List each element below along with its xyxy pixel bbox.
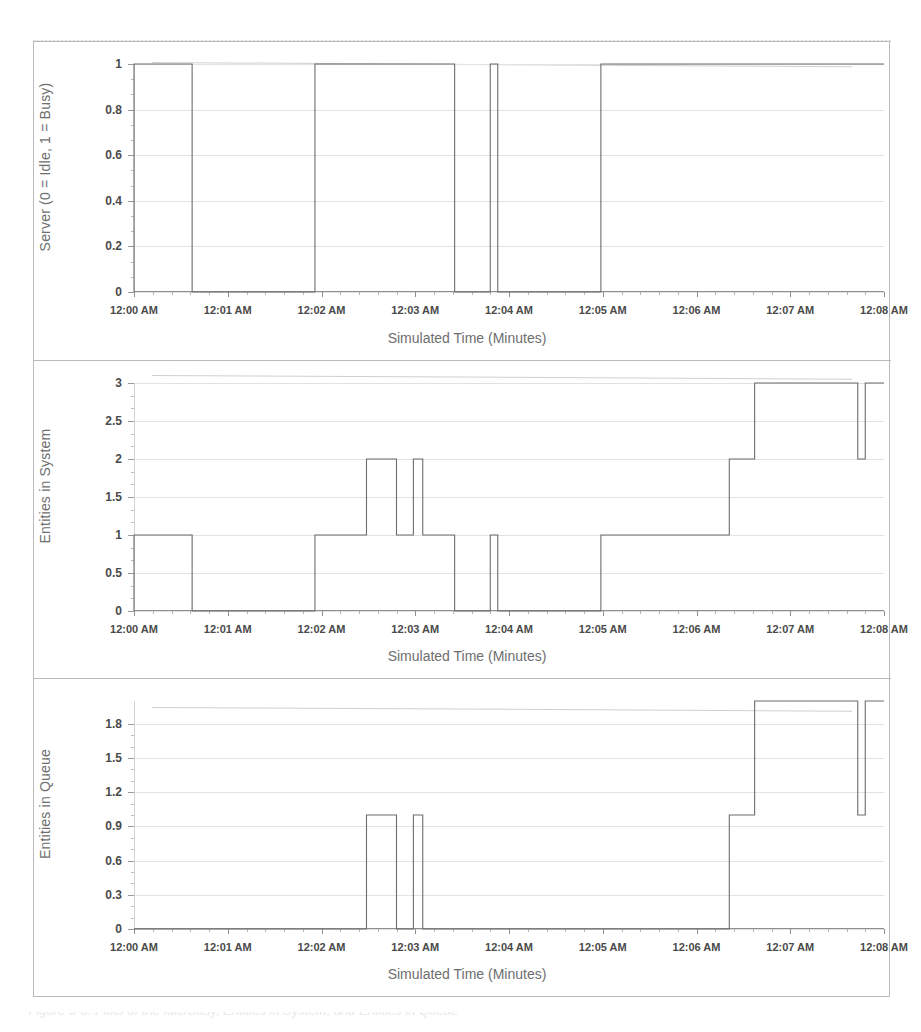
x-tick-mark: [884, 292, 885, 297]
x-tick-mark: [509, 292, 510, 297]
x-tick-mark: [790, 929, 791, 934]
plot-area-entities-in-system: 00.511.522.5312:00 AM12:01 AM12:02 AM12:…: [134, 383, 884, 611]
x-tick-mark: [509, 929, 510, 934]
y-tick-label: 0: [82, 604, 122, 618]
x-tick-minor: [865, 929, 866, 932]
x-tick-label: 12:07 AM: [755, 941, 825, 953]
x-tick-minor: [772, 611, 773, 614]
x-tick-minor: [190, 611, 191, 614]
x-tick-minor: [172, 292, 173, 295]
x-tick-label: 12:01 AM: [193, 304, 263, 316]
x-tick-minor: [828, 611, 829, 614]
x-tick-minor: [434, 292, 435, 295]
x-tick-minor: [753, 929, 754, 932]
x-tick-minor: [434, 611, 435, 614]
figure-caption: Figure 5-3. Plots of the Idle/Busy, Enti…: [28, 1012, 528, 1030]
x-tick-minor: [397, 292, 398, 295]
x-tick-minor: [809, 611, 810, 614]
x-tick-mark: [134, 929, 135, 934]
x-tick-mark: [415, 611, 416, 616]
y-tick-label: 1.5: [82, 490, 122, 504]
x-tick-minor: [378, 611, 379, 614]
y-tick-label: 0.6: [82, 854, 122, 868]
y-axis-title-server-status: Server (0 = Idle, 1 = Busy): [34, 42, 56, 292]
series-line-entities-in-queue: [134, 701, 884, 929]
x-axis-title-entities-in-queue: Simulated Time (Minutes): [92, 966, 842, 982]
x-tick-minor: [340, 611, 341, 614]
x-tick-minor: [378, 292, 379, 295]
y-tick-label: 0: [82, 285, 122, 299]
y-tick-label: 2.5: [82, 414, 122, 428]
x-tick-minor: [865, 611, 866, 614]
x-tick-mark: [228, 292, 229, 297]
x-tick-minor: [359, 611, 360, 614]
x-tick-minor: [397, 611, 398, 614]
x-axis-title-entities-in-system: Simulated Time (Minutes): [92, 648, 842, 664]
x-tick-mark: [603, 611, 604, 616]
x-tick-mark: [228, 929, 229, 934]
x-tick-minor: [678, 611, 679, 614]
x-tick-label: 12:04 AM: [474, 623, 544, 635]
y-tick-label: 1.2: [82, 785, 122, 799]
plot-area-entities-in-queue: 00.30.60.91.21.51.812:00 AM12:01 AM12:02…: [134, 701, 884, 929]
x-tick-mark: [415, 292, 416, 297]
x-tick-minor: [190, 292, 191, 295]
x-tick-minor: [772, 929, 773, 932]
y-tick-label: 1.8: [82, 717, 122, 731]
x-tick-mark: [509, 611, 510, 616]
x-tick-label: 12:08 AM: [849, 623, 919, 635]
x-tick-mark: [134, 611, 135, 616]
y-tick-label: 0.3: [82, 888, 122, 902]
x-tick-minor: [734, 611, 735, 614]
x-tick-mark: [697, 292, 698, 297]
x-tick-label: 12:00 AM: [99, 623, 169, 635]
series-path: [134, 383, 884, 611]
x-tick-label: 12:05 AM: [568, 623, 638, 635]
y-tick-label: 1: [82, 528, 122, 542]
x-tick-label: 12:02 AM: [287, 941, 357, 953]
x-tick-label: 12:04 AM: [474, 941, 544, 953]
x-tick-minor: [809, 929, 810, 932]
figure-frame: Server (0 = Idle, 1 = Busy) 00.20.40.60.…: [33, 41, 890, 997]
x-tick-minor: [753, 611, 754, 614]
x-tick-minor: [715, 292, 716, 295]
x-tick-mark: [322, 929, 323, 934]
x-tick-minor: [659, 292, 660, 295]
x-tick-mark: [322, 292, 323, 297]
x-tick-minor: [340, 292, 341, 295]
x-tick-label: 12:06 AM: [662, 623, 732, 635]
x-tick-label: 12:06 AM: [662, 941, 732, 953]
x-tick-label: 12:08 AM: [849, 304, 919, 316]
x-tick-label: 12:03 AM: [380, 304, 450, 316]
plot-area-server-status: 00.20.40.60.8112:00 AM12:01 AM12:02 AM12…: [134, 64, 884, 292]
x-tick-minor: [153, 292, 154, 295]
x-tick-minor: [753, 292, 754, 295]
series-path: [134, 701, 884, 929]
x-tick-label: 12:04 AM: [474, 304, 544, 316]
x-tick-mark: [322, 611, 323, 616]
y-tick-label: 0.6: [82, 148, 122, 162]
y-tick-label: 0.8: [82, 103, 122, 117]
x-tick-minor: [847, 929, 848, 932]
y-tick-label: 1.5: [82, 751, 122, 765]
x-tick-label: 12:00 AM: [99, 941, 169, 953]
y-tick-label: 0.2: [82, 239, 122, 253]
x-tick-mark: [603, 929, 604, 934]
y-tick-label: 2: [82, 452, 122, 466]
x-tick-minor: [865, 292, 866, 295]
x-tick-mark: [228, 611, 229, 616]
chart-panel-server-status: Server (0 = Idle, 1 = Busy) 00.20.40.60.…: [34, 42, 891, 360]
x-tick-minor: [678, 292, 679, 295]
x-tick-minor: [734, 292, 735, 295]
y-tick-label: 0.4: [82, 194, 122, 208]
y-tick-label: 0.5: [82, 566, 122, 580]
x-tick-minor: [847, 611, 848, 614]
figure-page: Server (0 = Idle, 1 = Busy) 00.20.40.60.…: [0, 0, 921, 1032]
x-tick-label: 12:01 AM: [193, 941, 263, 953]
series-line-entities-in-system: [134, 383, 884, 611]
x-tick-minor: [153, 611, 154, 614]
x-tick-minor: [828, 292, 829, 295]
x-tick-label: 12:06 AM: [662, 304, 732, 316]
chart-panel-entities-in-system: Entities in System 00.511.522.5312:00 AM…: [34, 360, 891, 678]
y-tick-label: 1: [82, 57, 122, 71]
